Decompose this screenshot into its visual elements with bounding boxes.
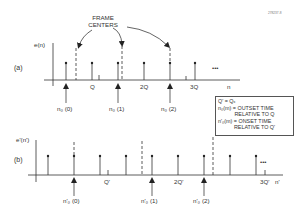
panel-a-marker-2: n₀ (2) [161,105,176,112]
panel-a-marker-0: n₀ (0) [57,105,72,112]
panel-b-stem-tips [47,155,257,157]
panel-b-marker-2: n'₀ (2) [193,197,209,204]
legend-line-2: n₀(m) = OUTSET TIME [218,105,291,112]
panel-b-tick-2q: 2Q' [174,178,183,185]
panel-b-xlabel: n' [275,178,280,185]
panel-b-tick-q: Q' [104,178,110,185]
panel-a-stem-tips [65,62,196,64]
frame-centers-arrows [79,27,168,46]
panel-b-label: (b) [14,156,23,164]
panel-a-ylabel: e(n) [34,41,45,48]
legend-line-3: RELATIVE TO Q [218,111,291,118]
panel-a-marker-arrows [66,86,170,103]
panel-a-label: (a) [14,64,23,72]
panel-a-tick-3q: 3Q [190,83,198,90]
frame-centers-label-line2: CENTERS [88,21,118,28]
panel-b-marker-arrows [74,180,204,196]
frame-centers-label-line1: FRAME [92,14,114,21]
panel-a-stems [66,63,195,80]
panel-b-marker-0: n'₀ (0) [63,197,79,204]
panel-b-stems [48,156,265,175]
legend-line-5: RELATIVE TO Q' [218,124,291,131]
panel-b-ellipsis: ••• [260,158,267,165]
panel-a-tick-2q: 2Q [140,83,148,90]
legend-box: Q' = Qₓ n₀(m) = OUTSET TIME RELATIVE TO … [215,96,294,136]
panel-a-xlabel: n [227,83,231,90]
figure-id: 278237-8 [268,11,282,15]
panel-b-axes [28,140,283,182]
legend-line-4: n'₀(m) = ONSET TIME [218,118,291,125]
panel-a-ellipsis: ••• [212,64,219,71]
panel-a-tick-q: Q [90,83,95,90]
panel-a-frame-center-lines [76,46,170,80]
panel-b-frame-center-lines [74,137,213,175]
panel-b-tick-3q: 3Q' [260,178,269,185]
panel-b-ylabel: e'(n') [16,136,29,143]
legend-line-1: Q' = Qₓ [218,98,291,105]
panel-a-marker-1: n₀ (1) [109,105,124,112]
panel-b-marker-1: n'₀ (1) [141,197,157,204]
panel-a-axes [44,43,240,86]
